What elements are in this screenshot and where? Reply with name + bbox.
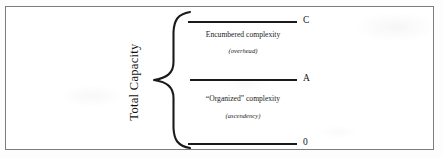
- band-subtitle-upper: (overhead): [185, 47, 301, 55]
- level-label-top: C: [303, 15, 310, 25]
- figure-border: [5, 6, 434, 150]
- level-line-bottom: [188, 143, 297, 145]
- band-subtitle-lower: (ascendency): [185, 112, 301, 120]
- level-label-bottom: 0: [303, 137, 308, 147]
- level-line-middle: [190, 79, 297, 81]
- total-capacity-axis-label: Total Capacity: [126, 34, 142, 130]
- figure-container: Total Capacity C Encumbered complexity (…: [0, 0, 443, 158]
- level-label-middle: A: [303, 73, 310, 83]
- band-title-upper: Encumbered complexity: [185, 30, 301, 39]
- level-line-top: [188, 21, 297, 23]
- band-title-lower: “Organized” complexity: [185, 94, 301, 103]
